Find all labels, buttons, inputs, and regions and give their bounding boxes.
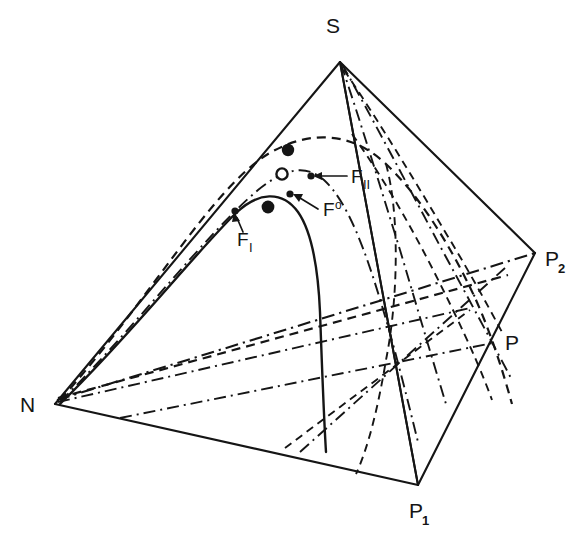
label-P: P <box>505 331 519 354</box>
label-S: S <box>326 14 340 37</box>
marker-dot-f0 <box>286 190 293 197</box>
dashed-sweep-right <box>352 134 492 400</box>
edge-N-P1 <box>55 404 418 485</box>
dashdot-cross-basal <box>300 268 505 452</box>
label-F-two-subscript: II <box>363 177 370 192</box>
label-P1: P <box>409 499 423 522</box>
label-F-two: F <box>351 166 363 187</box>
label-P2-group: P 2 <box>545 247 565 276</box>
dashdot-curves <box>58 64 512 452</box>
dashed-section-curves <box>58 70 512 474</box>
label-F-zero-group: F o <box>323 198 342 220</box>
marker-filled-upper <box>282 144 294 156</box>
label-P2: P <box>545 247 559 270</box>
label-P2-subscript: 2 <box>558 261 565 276</box>
label-F-two-group: F II <box>351 166 370 192</box>
edge-S-N <box>55 62 340 404</box>
leader-F-zero <box>300 198 318 209</box>
dashdot-line-through-P <box>120 343 493 418</box>
dashdot-ray-S-outer <box>342 64 512 380</box>
arrowhead-F-two <box>313 172 322 180</box>
marker-filled-lower <box>262 201 275 214</box>
label-P1-group: P 1 <box>409 499 429 528</box>
label-N: N <box>20 393 35 416</box>
vertex-labels: S N P 1 P 2 P <box>20 14 565 528</box>
label-F-zero: F <box>323 199 335 220</box>
label-F-one-group: F I <box>237 229 253 255</box>
label-P1-subscript: 1 <box>422 513 429 528</box>
marker-open-middle <box>276 168 287 179</box>
tetrahedron-phase-diagram: S N P 1 P 2 P F II F o F I <box>0 0 587 537</box>
f-point-labels: F II F o F I <box>237 166 370 255</box>
label-F-one-subscript: I <box>249 240 253 255</box>
label-F-zero-superscript: o <box>335 198 342 212</box>
dashed-descent-to-P1 <box>356 164 396 474</box>
label-F-one: F <box>237 229 249 250</box>
